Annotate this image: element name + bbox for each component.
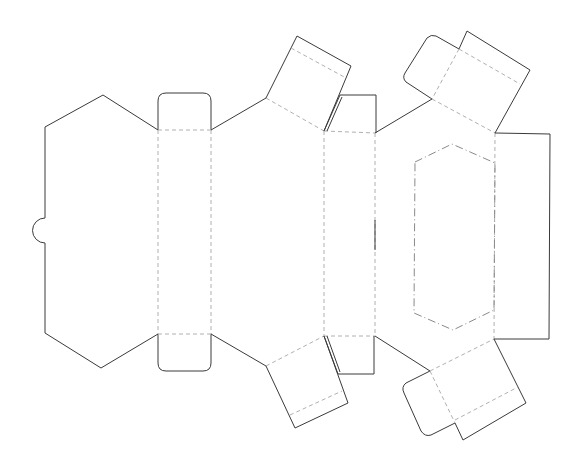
- bottom-flap-1: [266, 336, 348, 428]
- window-panel: [375, 99, 495, 371]
- window-cutout: [414, 144, 495, 330]
- top-flap-1: [266, 36, 351, 131]
- box-dieline-diagram: [0, 0, 583, 472]
- front-panel: [211, 98, 324, 366]
- top-flap-2: [404, 31, 530, 133]
- left-end-panel: [33, 95, 158, 368]
- right-glue-flap: [494, 133, 550, 339]
- side-strip-2: [324, 95, 376, 374]
- side-strip-1: [158, 93, 211, 371]
